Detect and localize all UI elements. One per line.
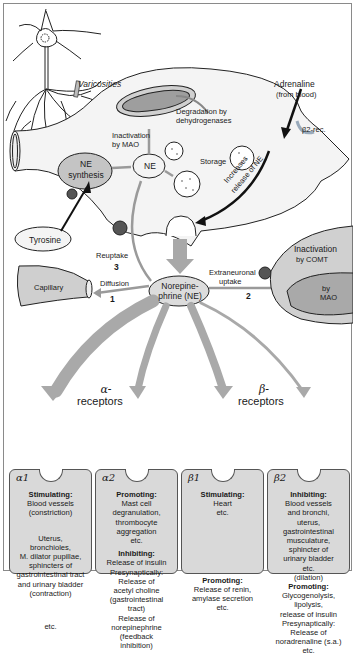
section-line: etc. bbox=[98, 536, 175, 545]
adrenaline-label: Adrenaline bbox=[274, 79, 315, 89]
section-line: Release of bbox=[98, 577, 175, 586]
section-line: inhibition) bbox=[98, 641, 175, 650]
section-line: (contraction) bbox=[12, 589, 89, 598]
norepinephrine-label-2: phrine (NE) bbox=[154, 291, 206, 301]
section-line: Glycogenolysis, bbox=[270, 591, 347, 600]
section-title: Inhibiting: bbox=[270, 490, 347, 499]
beta2-receptor-label: β2-rec. bbox=[302, 125, 326, 134]
beta-receptors-label-2: receptors bbox=[238, 395, 284, 407]
degradation-label: Degradation by bbox=[176, 107, 227, 116]
section-line: lipolysis, bbox=[270, 600, 347, 609]
ne-synthesis-label: NE bbox=[76, 159, 96, 169]
by-mao-label: by bbox=[322, 284, 330, 293]
section-line: release of insulin bbox=[270, 610, 347, 619]
receptor-symbol: β1 bbox=[188, 473, 200, 482]
inactivation-mao-label-2: by MAO bbox=[112, 140, 139, 149]
receptor-box-beta1: β1 Stimulating: Heart etc. Promoting: Re… bbox=[181, 469, 264, 574]
extraneuronal-label-2: uptake bbox=[219, 277, 242, 286]
section-line: gastrointestinal tract bbox=[12, 570, 89, 579]
section-line: uterus, bbox=[270, 518, 347, 527]
section-line: musculature, bbox=[270, 536, 347, 545]
section-line: Heart bbox=[184, 499, 261, 508]
section-line: noradrenaline (s.a.) bbox=[270, 637, 347, 646]
alpha-receptors-label-2: receptors bbox=[77, 395, 123, 407]
section-line: degranulation, bbox=[98, 508, 175, 517]
section-line: Release of bbox=[270, 628, 347, 637]
section-line: (dilation) bbox=[270, 573, 347, 582]
receptor-notch bbox=[211, 469, 235, 482]
inactivation-comt-label-2: by COMT bbox=[296, 255, 328, 264]
receptor-notch bbox=[39, 469, 63, 482]
section-line: Blood vessels bbox=[12, 499, 89, 508]
section-line: and urinary bladder bbox=[12, 580, 89, 589]
section-line: M. dilator pupillae, bbox=[12, 552, 89, 561]
receptor-box-beta2: β2 Inhibiting: Blood vessels and bronchi… bbox=[267, 469, 350, 574]
receptor-symbol: β2 bbox=[274, 473, 286, 482]
by-mao-label-2: MAO bbox=[320, 293, 337, 302]
section-line: aggregation bbox=[98, 527, 175, 536]
section-line: amylase secretion bbox=[184, 594, 261, 603]
diagram-frame: Varicosities Adrenaline (from blood) β2-… bbox=[3, 3, 352, 571]
inactivation-mao-label: Inactivation bbox=[112, 131, 150, 140]
receptor-notch bbox=[297, 469, 321, 482]
receptor-symbol: α1 bbox=[16, 473, 29, 482]
section-line: acetyl choline bbox=[98, 586, 175, 595]
section-title: Stimulating: bbox=[184, 490, 261, 499]
section-line: Mast cell bbox=[98, 499, 175, 508]
inactivation-comt-label: Inactivation bbox=[294, 244, 337, 254]
receptor-box-alpha1: α1 Stimulating: Blood vessels (constrict… bbox=[9, 469, 92, 574]
section-line: etc. bbox=[184, 508, 261, 517]
section-title: Inhibiting: bbox=[98, 549, 175, 558]
section-line: bronchioles, bbox=[12, 543, 89, 552]
section-line: tract) bbox=[98, 604, 175, 613]
receptor-symbol: α2 bbox=[102, 473, 115, 482]
section-title: Promoting: bbox=[184, 576, 261, 585]
section-line: Blood vessels bbox=[270, 499, 347, 508]
section-line: etc. bbox=[270, 646, 347, 655]
section-line: urinary bladder bbox=[270, 554, 347, 563]
tyrosine-label: Tyrosine bbox=[26, 235, 64, 245]
section-line: etc. bbox=[184, 603, 261, 612]
degradation-label-2: dehydrogenases bbox=[176, 116, 231, 125]
section-line: Release of renin, bbox=[184, 585, 261, 594]
capillary-label: Capillary bbox=[34, 283, 63, 292]
section-line: norepinephrine bbox=[98, 623, 175, 632]
reuptake-label: Reuptake bbox=[96, 251, 128, 260]
ne-label: NE bbox=[140, 161, 160, 171]
section-line: gastrointestinal bbox=[270, 527, 347, 536]
section-title: Stimulating: bbox=[12, 490, 89, 499]
diffusion-label: Diffusion bbox=[100, 279, 129, 288]
section-line: (constriction) bbox=[12, 508, 89, 517]
extraneuronal-label: Extraneuronal bbox=[209, 268, 256, 277]
diffusion-number: 1 bbox=[110, 294, 115, 304]
section-line: Release of insulin bbox=[98, 558, 175, 567]
section-title: Promoting: bbox=[98, 490, 175, 499]
receptor-box-alpha2: α2 Promoting: Mast cell degranulation, t… bbox=[95, 469, 178, 574]
section-title: Promoting: bbox=[270, 582, 347, 591]
section-line: Presynaptically: bbox=[98, 568, 175, 577]
section-line: thrombocyte bbox=[98, 518, 175, 527]
extraneuronal-number: 2 bbox=[246, 291, 251, 301]
reuptake-number: 3 bbox=[114, 262, 119, 272]
section-line: (feedback bbox=[98, 632, 175, 641]
adrenaline-source-label: (from blood) bbox=[276, 90, 316, 99]
section-line: sphincters of bbox=[12, 561, 89, 570]
varicosities-label: Varicosities bbox=[78, 79, 121, 89]
section-line: Release of bbox=[98, 614, 175, 623]
section-line: etc. bbox=[12, 622, 89, 631]
section-line: sphincter of bbox=[270, 545, 347, 554]
norepinephrine-label: Norepine- bbox=[154, 281, 206, 291]
receptor-notch bbox=[125, 469, 149, 482]
section-line: Presynaptically: bbox=[270, 619, 347, 628]
ne-synthesis-label-2: synthesis bbox=[66, 170, 106, 180]
section-line: etc. bbox=[270, 564, 347, 573]
section-line: Uterus, bbox=[12, 534, 89, 543]
storage-label: Storage bbox=[200, 157, 226, 166]
section-line: and bronchi, bbox=[270, 508, 347, 517]
section-line: (gastrointestinal bbox=[98, 595, 175, 604]
